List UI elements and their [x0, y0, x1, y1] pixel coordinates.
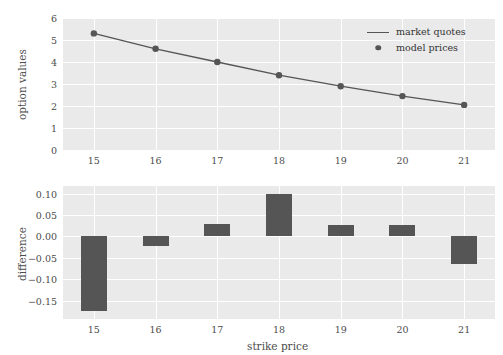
- model-price-point: [91, 30, 97, 36]
- model-price-point: [461, 102, 467, 108]
- model-price-point: [276, 72, 282, 78]
- legend-item-market-quotes: market quotes: [367, 26, 466, 37]
- bar: [451, 236, 477, 264]
- bar: [143, 236, 169, 245]
- grid-line-vertical: [156, 186, 157, 319]
- model-price-point: [214, 59, 220, 65]
- y-tick-label: −0.10: [0, 274, 57, 285]
- y-tick-label: −0.15: [0, 295, 57, 306]
- x-tick-label: 16: [150, 324, 162, 335]
- grid-line-vertical: [402, 186, 403, 319]
- chart-legend: market quotes model prices: [367, 26, 466, 53]
- grid-line-vertical: [341, 186, 342, 319]
- y-tick-label: 0.05: [0, 210, 57, 221]
- grid-line-vertical: [217, 186, 218, 319]
- legend-item-model-prices: model prices: [367, 42, 466, 53]
- y-tick-label: −0.05: [0, 252, 57, 263]
- y-tick-label: 0.00: [0, 231, 57, 242]
- x-tick-label: 19: [335, 324, 347, 335]
- y-tick-label: 0.10: [0, 188, 57, 199]
- dot-swatch-icon: [367, 43, 389, 53]
- x-tick-label: 17: [211, 324, 223, 335]
- x-tick-label: 15: [88, 324, 100, 335]
- line-swatch-icon: [367, 27, 389, 37]
- figure: option values 0123456 15161718192021 mar…: [0, 0, 503, 355]
- bar: [389, 225, 415, 237]
- bar: [328, 225, 354, 237]
- legend-label-model-prices: model prices: [396, 42, 458, 53]
- x-tick-label: 21: [458, 324, 470, 335]
- model-price-point: [399, 93, 405, 99]
- x-tick-label: 20: [396, 324, 408, 335]
- legend-label-market-quotes: market quotes: [396, 26, 466, 37]
- bar: [204, 224, 230, 236]
- x-tick-label: 18: [273, 324, 285, 335]
- bar-chart-x-axis-label: strike price: [247, 340, 308, 352]
- bar: [266, 194, 292, 237]
- model-price-point: [152, 46, 158, 52]
- bar: [81, 236, 107, 311]
- model-price-point: [338, 83, 344, 89]
